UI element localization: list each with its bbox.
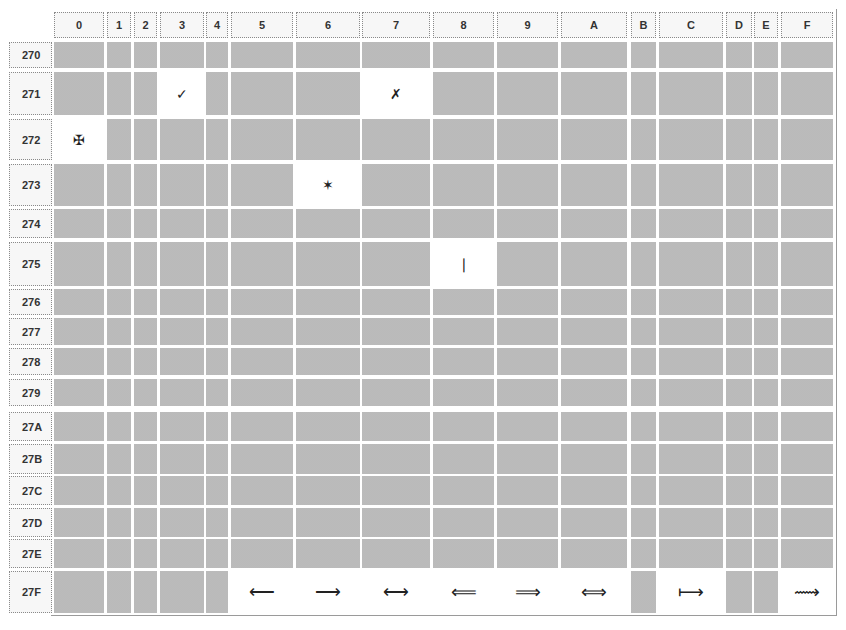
empty-cell [54, 289, 104, 315]
empty-cell [726, 348, 752, 375]
empty-cell [631, 412, 656, 441]
empty-cell [296, 444, 360, 474]
empty-cell [107, 476, 131, 505]
row-header-27d: 27D [9, 508, 52, 537]
empty-cell [362, 444, 430, 474]
glyph-cell-27f-f[interactable]: ⟿ [781, 571, 833, 613]
empty-cell [134, 42, 157, 68]
glyph-cell-27f-c[interactable]: ⟼ [659, 571, 723, 613]
empty-cell [231, 42, 293, 68]
column-header-1: 1 [107, 12, 131, 38]
row-header-272: 272 [9, 119, 52, 160]
long-left-double-arrow-icon: ⟸ [451, 581, 477, 603]
empty-cell [754, 289, 778, 315]
row-header-275: 275 [9, 242, 52, 286]
glyph-cell-27f-8[interactable]: ⟸ [433, 571, 494, 613]
empty-cell [231, 379, 293, 406]
empty-cell [296, 348, 360, 375]
empty-cell [362, 476, 430, 505]
empty-cell [160, 209, 204, 238]
empty-cell [433, 318, 494, 345]
empty-cell [54, 412, 104, 441]
empty-cell [497, 444, 558, 474]
row-header-27f: 27F [9, 571, 52, 613]
unicode-character-grid: 0123456789ABCDEF270271✓✗272✠273✶274275❘2… [0, 0, 846, 630]
empty-cell [160, 289, 204, 315]
empty-cell [206, 242, 228, 286]
empty-cell [781, 539, 833, 568]
row-header-274: 274 [9, 209, 52, 238]
empty-cell [726, 242, 752, 286]
glyph-cell-273-6[interactable]: ✶ [296, 164, 360, 206]
empty-cell [231, 508, 293, 537]
empty-cell [631, 476, 656, 505]
empty-cell [754, 42, 778, 68]
empty-cell [659, 476, 723, 505]
glyph-cell-271-3[interactable]: ✓ [160, 72, 204, 115]
empty-cell [160, 318, 204, 345]
empty-cell [659, 318, 723, 345]
empty-cell [631, 72, 656, 115]
empty-cell [726, 412, 752, 441]
empty-cell [561, 539, 627, 568]
empty-cell [107, 72, 131, 115]
vertical-bar-icon: ❘ [458, 256, 470, 272]
empty-cell [134, 318, 157, 345]
empty-cell [433, 476, 494, 505]
empty-cell [107, 164, 131, 206]
empty-cell [206, 476, 228, 505]
empty-cell [231, 242, 293, 286]
empty-cell [296, 476, 360, 505]
glyph-cell-27f-a[interactable]: ⟺ [561, 571, 627, 613]
empty-cell [631, 508, 656, 537]
empty-cell [107, 444, 131, 474]
empty-cell [659, 72, 723, 115]
row-header-27a: 27A [9, 412, 52, 441]
empty-cell [107, 379, 131, 406]
empty-cell [160, 119, 204, 160]
glyph-cell-27f-5[interactable]: ⟵ [231, 571, 293, 613]
empty-cell [561, 318, 627, 345]
empty-cell [206, 318, 228, 345]
empty-cell [726, 164, 752, 206]
glyph-cell-275-8[interactable]: ❘ [433, 242, 494, 286]
empty-cell [362, 242, 430, 286]
empty-cell [754, 412, 778, 441]
empty-cell [362, 348, 430, 375]
empty-cell [754, 508, 778, 537]
empty-cell [433, 164, 494, 206]
column-header-e: E [754, 12, 778, 38]
empty-cell [726, 72, 752, 115]
row-header-271: 271 [9, 72, 52, 115]
column-header-7: 7 [362, 12, 430, 38]
empty-cell [781, 508, 833, 537]
empty-cell [296, 539, 360, 568]
empty-cell [296, 289, 360, 315]
empty-cell [134, 242, 157, 286]
glyph-cell-27f-9[interactable]: ⟹ [497, 571, 558, 613]
empty-cell [160, 379, 204, 406]
glyph-cell-272-0[interactable]: ✠ [54, 119, 104, 160]
ballot-x-icon: ✗ [390, 86, 402, 102]
empty-cell [206, 539, 228, 568]
empty-cell [781, 444, 833, 474]
empty-cell [231, 412, 293, 441]
empty-cell [231, 476, 293, 505]
column-header-d: D [726, 12, 752, 38]
empty-cell [561, 164, 627, 206]
empty-cell [134, 72, 157, 115]
empty-cell [160, 242, 204, 286]
empty-cell [54, 164, 104, 206]
empty-cell [754, 571, 778, 613]
glyph-cell-27f-6[interactable]: ⟶ [296, 571, 360, 613]
empty-cell [206, 379, 228, 406]
glyph-cell-27f-7[interactable]: ⟷ [362, 571, 430, 613]
empty-cell [497, 72, 558, 115]
glyph-cell-271-7[interactable]: ✗ [362, 72, 430, 115]
empty-cell [433, 119, 494, 160]
empty-cell [754, 379, 778, 406]
empty-cell [231, 164, 293, 206]
empty-cell [433, 348, 494, 375]
empty-cell [497, 242, 558, 286]
empty-cell [206, 508, 228, 537]
